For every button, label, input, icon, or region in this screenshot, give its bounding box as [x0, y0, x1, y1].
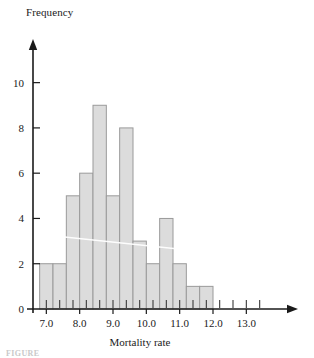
x-axis-tick-label: 10.0 [137, 317, 157, 329]
histogram-bar [66, 196, 79, 309]
x-axis-tick-label: 11.0 [170, 317, 189, 329]
y-axis-tick-label: 6 [19, 167, 25, 179]
y-axis-tick-label: 0 [19, 303, 25, 315]
figure-caption: FIGURE [6, 349, 40, 358]
histogram-bar [160, 218, 173, 309]
histogram-bar [133, 241, 146, 309]
x-axis-tick-label: 12.0 [203, 317, 223, 329]
bars-group [40, 105, 213, 309]
y-axis-tick-label: 8 [19, 122, 25, 134]
histogram-plot: 02468107.08.09.010.011.012.013.0 [0, 0, 314, 358]
histogram-bar [93, 105, 106, 309]
histogram-bar [120, 128, 133, 309]
y-axis-tick-label: 4 [19, 212, 25, 224]
y-axis-arrow-icon [29, 39, 37, 50]
x-axis-tick-label: 9.0 [106, 317, 120, 329]
x-axis-tick-label: 7.0 [39, 317, 53, 329]
histogram-bar [80, 173, 93, 309]
y-axis-tick-label: 2 [19, 258, 25, 270]
histogram-bar [106, 196, 119, 309]
y-axis-tick-label: 10 [13, 77, 25, 89]
x-axis-tick-label: 8.0 [73, 317, 87, 329]
histogram-figure: Frequency 02468107.08.09.010.011.012.013… [0, 0, 314, 358]
x-axis-title: Mortality rate [0, 336, 280, 348]
x-axis-arrow-icon [287, 305, 298, 313]
x-axis-tick-label: 13.0 [237, 317, 257, 329]
